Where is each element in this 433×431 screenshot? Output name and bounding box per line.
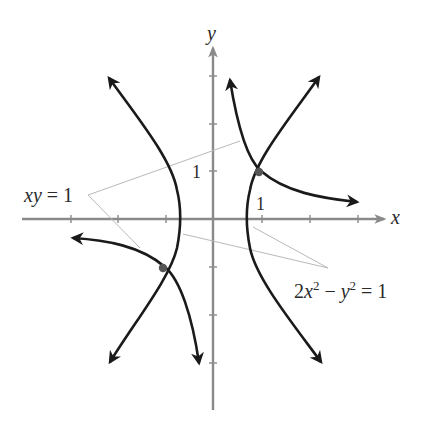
hyperbola-diagram: x y 1 1 xy = 1 2x2 − y2 = 1	[0, 0, 433, 431]
intersection-point-neg1-neg1	[159, 264, 167, 272]
label-xy-equals-1: xy = 1	[23, 184, 73, 207]
x-axis-label: x	[390, 206, 400, 228]
x-tick-label-1: 1	[256, 194, 265, 214]
label-hyperbola-equation: 2x2 − y2 = 1	[294, 278, 387, 303]
axes: x y 1 1	[22, 22, 400, 410]
curve-xy-equals-1	[73, 80, 357, 363]
xy-third-quadrant-branch	[73, 238, 199, 363]
leader-lines	[88, 141, 328, 268]
intersection-point-1-1	[255, 168, 263, 176]
xy-first-quadrant-branch	[230, 80, 357, 202]
y-tick-label-1: 1	[192, 162, 201, 182]
y-axis-label: y	[205, 22, 216, 45]
